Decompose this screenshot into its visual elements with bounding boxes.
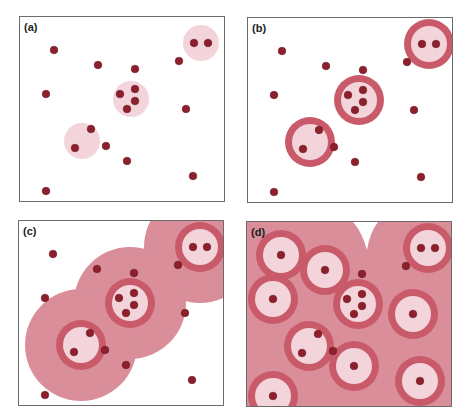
panel-label-d: (d) bbox=[251, 226, 265, 238]
panel-a: (a) bbox=[19, 16, 225, 202]
point-dot bbox=[322, 62, 330, 70]
point-dot bbox=[131, 65, 139, 73]
point-dot bbox=[403, 58, 411, 66]
cluster-circle bbox=[182, 229, 218, 265]
point-dot bbox=[123, 157, 131, 165]
point-pattern-diagram-b bbox=[248, 18, 453, 203]
point-dot bbox=[102, 142, 110, 150]
point-dot bbox=[343, 295, 351, 303]
point-dot bbox=[315, 126, 323, 134]
point-dot bbox=[71, 144, 79, 152]
point-dot bbox=[87, 125, 95, 133]
point-dot bbox=[70, 348, 78, 356]
point-dot bbox=[409, 310, 417, 318]
point-dot bbox=[330, 143, 338, 151]
point-dot bbox=[417, 244, 425, 252]
point-dot bbox=[432, 40, 440, 48]
cluster-circle bbox=[341, 82, 377, 118]
point-dot bbox=[41, 294, 49, 302]
cluster-circle bbox=[340, 286, 376, 322]
panel-label-b: (b) bbox=[252, 22, 266, 34]
point-dot bbox=[358, 290, 366, 298]
panel-label-a: (a) bbox=[24, 21, 37, 33]
point-dot bbox=[358, 270, 366, 278]
point-dot bbox=[86, 329, 94, 337]
point-dot bbox=[329, 347, 337, 355]
point-dot bbox=[94, 61, 102, 69]
point-dot bbox=[350, 310, 358, 318]
point-dot bbox=[321, 266, 329, 274]
point-dot bbox=[359, 86, 367, 94]
point-dot bbox=[131, 85, 139, 93]
point-dot bbox=[402, 262, 410, 270]
point-dot bbox=[270, 188, 278, 196]
point-dot bbox=[189, 172, 197, 180]
cluster-circle bbox=[183, 25, 219, 61]
point-dot bbox=[417, 173, 425, 181]
point-dot bbox=[277, 251, 285, 259]
point-dot bbox=[93, 265, 101, 273]
panel-c: (c) bbox=[18, 220, 224, 406]
point-dot bbox=[278, 47, 286, 55]
point-dot bbox=[410, 106, 418, 114]
point-dot bbox=[130, 289, 138, 297]
panel-b: (b) bbox=[247, 17, 453, 203]
point-dot bbox=[130, 269, 138, 277]
point-dot bbox=[122, 361, 130, 369]
point-dot bbox=[299, 145, 307, 153]
point-dot bbox=[190, 39, 198, 47]
point-dot bbox=[359, 66, 367, 74]
point-dot bbox=[188, 376, 196, 384]
point-dot bbox=[131, 97, 139, 105]
point-dot bbox=[175, 57, 183, 65]
point-dot bbox=[130, 301, 138, 309]
point-dot bbox=[116, 90, 124, 98]
cluster-circle bbox=[113, 81, 149, 117]
point-dot bbox=[351, 158, 359, 166]
point-dot bbox=[101, 346, 109, 354]
point-dot bbox=[358, 302, 366, 310]
cluster-circle bbox=[410, 230, 446, 266]
point-dot bbox=[122, 309, 130, 317]
point-dot bbox=[416, 377, 424, 385]
cluster-circle bbox=[112, 285, 148, 321]
point-dot bbox=[314, 330, 322, 338]
point-dot bbox=[182, 105, 190, 113]
point-dot bbox=[204, 39, 212, 47]
point-dot bbox=[203, 243, 211, 251]
point-dot bbox=[174, 261, 182, 269]
point-dot bbox=[351, 106, 359, 114]
point-dot bbox=[269, 295, 277, 303]
point-pattern-diagram-c bbox=[19, 221, 224, 406]
panel-label-c: (c) bbox=[23, 225, 36, 237]
point-dot bbox=[49, 250, 57, 258]
point-dot bbox=[115, 294, 123, 302]
point-dot bbox=[42, 90, 50, 98]
point-pattern-diagram-d bbox=[247, 222, 452, 407]
point-dot bbox=[189, 243, 197, 251]
point-dot bbox=[269, 392, 277, 400]
point-dot bbox=[123, 105, 131, 113]
point-dot bbox=[344, 91, 352, 99]
point-dot bbox=[41, 391, 49, 399]
point-dot bbox=[298, 349, 306, 357]
point-dot bbox=[431, 244, 439, 252]
point-dot bbox=[350, 362, 358, 370]
point-dot bbox=[181, 309, 189, 317]
point-dot bbox=[418, 40, 426, 48]
point-dot bbox=[270, 91, 278, 99]
point-dot bbox=[359, 98, 367, 106]
cluster-circle bbox=[411, 26, 447, 62]
point-pattern-diagram-a bbox=[20, 17, 225, 202]
panel-d: (d) bbox=[246, 221, 452, 407]
point-dot bbox=[50, 46, 58, 54]
point-dot bbox=[42, 187, 50, 195]
